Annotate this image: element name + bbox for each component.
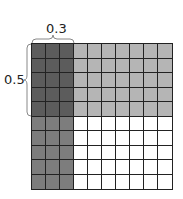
- grid-cell: [158, 73, 172, 88]
- grid-cell: [60, 117, 74, 132]
- grid-cell: [130, 44, 144, 59]
- grid-cell: [130, 131, 144, 146]
- grid-cell: [74, 59, 88, 74]
- grid-cell: [130, 146, 144, 161]
- grid-cell: [102, 88, 116, 103]
- grid-cell: [116, 88, 130, 103]
- grid-cell: [32, 175, 46, 190]
- grid-cell: [32, 131, 46, 146]
- grid-cell: [60, 175, 74, 190]
- grid-cell: [88, 59, 102, 74]
- grid-cell: [74, 117, 88, 132]
- grid-cell: [116, 160, 130, 175]
- height-label: 0.5: [4, 73, 25, 86]
- grid-cell: [116, 44, 130, 59]
- grid-cell: [158, 59, 172, 74]
- grid-cell: [158, 88, 172, 103]
- grid-cell: [46, 160, 60, 175]
- grid-cell: [116, 175, 130, 190]
- grid-cell: [116, 131, 130, 146]
- grid-cell: [32, 102, 46, 117]
- grid-cell: [144, 131, 158, 146]
- grid-cell: [102, 59, 116, 74]
- grid-cell: [60, 44, 74, 59]
- grid-cell: [144, 175, 158, 190]
- grid-cell: [32, 44, 46, 59]
- grid-cell: [144, 146, 158, 161]
- grid-cell: [116, 117, 130, 132]
- grid-cell: [60, 146, 74, 161]
- grid-cell: [88, 131, 102, 146]
- grid-cell: [116, 73, 130, 88]
- grid-cell: [32, 146, 46, 161]
- grid-cell: [130, 160, 144, 175]
- grid-cell: [144, 59, 158, 74]
- width-label: 0.3: [46, 22, 67, 35]
- grid-cell: [158, 117, 172, 132]
- grid-cell: [88, 88, 102, 103]
- grid-cell: [102, 44, 116, 59]
- grid-cell: [74, 146, 88, 161]
- hundred-grid: [31, 43, 173, 190]
- grid-cell: [130, 117, 144, 132]
- grid-cell: [46, 59, 60, 74]
- grid-cell: [144, 44, 158, 59]
- grid-cell: [102, 131, 116, 146]
- grid-cell: [46, 44, 60, 59]
- grid-cell: [46, 146, 60, 161]
- grid-cell: [46, 102, 60, 117]
- grid-cell: [74, 160, 88, 175]
- grid-cell: [60, 59, 74, 74]
- grid-cell: [102, 175, 116, 190]
- grid-cell: [46, 131, 60, 146]
- grid-cell: [46, 88, 60, 103]
- grid-cell: [158, 131, 172, 146]
- grid-cell: [60, 88, 74, 103]
- grid-cell: [60, 131, 74, 146]
- grid-cell: [144, 117, 158, 132]
- grid-cell: [116, 146, 130, 161]
- grid-cell: [130, 88, 144, 103]
- grid-cell: [102, 117, 116, 132]
- grid-cell: [74, 44, 88, 59]
- grid-cell: [60, 73, 74, 88]
- grid-cell: [116, 102, 130, 117]
- grid-cell: [144, 102, 158, 117]
- grid-cell: [158, 160, 172, 175]
- grid-cell: [32, 160, 46, 175]
- grid-cell: [102, 73, 116, 88]
- grid-cell: [74, 131, 88, 146]
- grid-cell: [88, 175, 102, 190]
- grid-cell: [32, 59, 46, 74]
- grid-cell: [88, 102, 102, 117]
- grid-cell: [74, 73, 88, 88]
- grid-cell: [116, 59, 130, 74]
- grid-cell: [102, 102, 116, 117]
- grid-cell: [158, 44, 172, 59]
- grid-cell: [60, 102, 74, 117]
- grid-cell: [88, 160, 102, 175]
- grid-cell: [144, 160, 158, 175]
- grid-cell: [46, 117, 60, 132]
- grid-cell: [74, 175, 88, 190]
- grid-cell: [88, 44, 102, 59]
- grid-cell: [74, 88, 88, 103]
- grid-cell: [32, 117, 46, 132]
- grid-cell: [88, 73, 102, 88]
- grid-cell: [102, 160, 116, 175]
- grid-cell: [46, 175, 60, 190]
- grid-cell: [130, 59, 144, 74]
- grid-cell: [46, 73, 60, 88]
- grid-cell: [158, 175, 172, 190]
- grid-cell: [88, 146, 102, 161]
- grid-cell: [32, 88, 46, 103]
- grid-cell: [130, 73, 144, 88]
- grid-cell: [102, 146, 116, 161]
- grid-cell: [158, 102, 172, 117]
- grid-cell: [130, 102, 144, 117]
- grid-cell: [158, 146, 172, 161]
- grid-cell: [144, 73, 158, 88]
- grid-cell: [144, 88, 158, 103]
- grid-cell: [130, 175, 144, 190]
- grid-cell: [88, 117, 102, 132]
